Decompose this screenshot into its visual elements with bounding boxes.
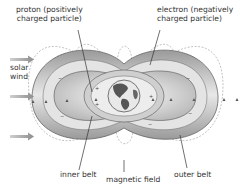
- negative-charge: −: [58, 75, 62, 81]
- outer-belt-leader: [180, 135, 187, 168]
- arrowhead-icon: [236, 98, 239, 101]
- negative-charge: −: [188, 110, 192, 116]
- electron-label: electron (negatively charged particle): [157, 6, 233, 23]
- solar-wind-arrow-icon: [10, 133, 34, 141]
- inner-belt-label: inner belt: [60, 171, 97, 180]
- positive-charge: +: [95, 101, 99, 107]
- arrowhead-icon: [223, 98, 226, 101]
- solar-wind-arrow-icon: [10, 93, 34, 101]
- outer-belt-label: outer belt: [174, 171, 211, 180]
- positive-charge: +: [149, 93, 153, 99]
- negative-charge: −: [60, 113, 64, 119]
- magnetic-field-label: magnetic field: [106, 176, 160, 185]
- positive-charge: +: [95, 85, 99, 91]
- radiation-belts-diagram: + + + − − − − −: [0, 0, 247, 189]
- proton-label: proton (positively charged particle): [16, 6, 83, 23]
- solar-wind-label: solar wind: [10, 64, 29, 81]
- earth: [108, 80, 140, 112]
- negative-charge: −: [148, 121, 152, 127]
- negative-charge: −: [186, 75, 190, 81]
